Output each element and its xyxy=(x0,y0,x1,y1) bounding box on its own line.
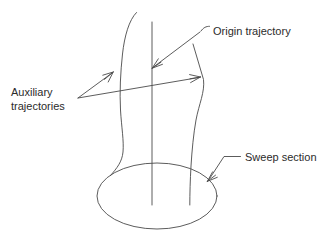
auxiliary-trajectories-label-line2: trajectories xyxy=(11,100,65,112)
auxiliary-trajectories-leader-upper xyxy=(78,73,112,98)
auxiliary-trajectories-arrowhead-upper xyxy=(103,72,113,82)
sweep-section-arrowhead xyxy=(207,172,217,182)
origin-trajectory-label: Origin trajectory xyxy=(213,25,291,37)
auxiliary-trajectories-label-line1: Auxiliary xyxy=(11,86,53,98)
origin-trajectory-leader-hook xyxy=(201,26,210,31)
auxiliary-trajectories-leader-long xyxy=(78,78,199,99)
left-auxiliary-trajectory-curve xyxy=(111,13,137,176)
right-auxiliary-trajectory-curve xyxy=(190,44,204,205)
sweep-section-ellipse xyxy=(97,163,217,229)
origin-trajectory-leader-line xyxy=(154,32,201,67)
sweep-solid-diagram: Origin trajectory Auxiliary trajectories… xyxy=(0,0,333,239)
sweep-section-label: Sweep section xyxy=(245,151,317,163)
origin-trajectory-arrowhead xyxy=(152,59,162,68)
